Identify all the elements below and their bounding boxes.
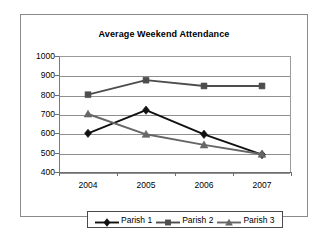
y-tick-label: 700 <box>21 109 55 119</box>
y-tick-label: 400 <box>21 167 55 177</box>
chart-title: Average Weekend Attendance <box>21 29 307 39</box>
y-tick-mark <box>55 133 59 134</box>
x-tick-label: 2006 <box>182 180 226 190</box>
x-tick-label: 2005 <box>124 180 168 190</box>
y-tick-mark <box>55 56 59 57</box>
y-tick-mark <box>55 153 59 154</box>
legend-item-1[interactable]: Parish 1 <box>93 214 154 225</box>
legend-item-3[interactable]: Parish 3 <box>215 214 276 225</box>
y-tick-mark <box>55 75 59 76</box>
chart-legend: Parish 1Parish 2Parish 3 <box>87 211 283 228</box>
data-point-marker <box>201 130 208 138</box>
legend-label: Parish 3 <box>241 215 274 225</box>
y-tick-label: 500 <box>21 148 55 158</box>
y-tick-label: 600 <box>21 128 55 138</box>
x-tick-mark <box>175 172 176 176</box>
data-point-marker <box>85 129 92 137</box>
series-3 <box>84 110 266 157</box>
legend-marker-icon <box>95 214 119 225</box>
data-point-marker <box>143 77 149 83</box>
x-tick-mark <box>233 172 234 176</box>
y-tick-label: 900 <box>21 70 55 80</box>
series-line <box>88 80 262 95</box>
series-2 <box>85 77 265 97</box>
series-plot <box>59 56 291 172</box>
series-line <box>88 114 262 154</box>
chart-frame: Average Weekend Attendance 1000900800700… <box>20 14 308 217</box>
y-tick-mark <box>55 114 59 115</box>
x-tick-mark <box>117 172 118 176</box>
data-point-marker <box>85 92 91 98</box>
legend-item-2[interactable]: Parish 2 <box>154 214 215 225</box>
legend-label: Parish 1 <box>119 215 152 225</box>
y-axis-labels: 1000900800700600500400 <box>21 56 55 172</box>
data-point-marker <box>143 106 150 114</box>
y-tick-mark <box>55 95 59 96</box>
legend-label: Parish 2 <box>180 215 213 225</box>
data-point-marker <box>201 83 207 89</box>
series-line <box>88 110 262 154</box>
legend-marker-icon <box>217 214 241 225</box>
x-tick-mark <box>59 172 60 176</box>
data-point-marker <box>84 110 92 117</box>
x-tick-label: 2004 <box>66 180 110 190</box>
data-point-marker <box>259 83 265 89</box>
x-tick-mark <box>291 172 292 176</box>
y-tick-label: 1000 <box>21 51 55 61</box>
x-tick-label: 2007 <box>240 180 284 190</box>
y-tick-label: 800 <box>21 90 55 100</box>
legend-marker-icon <box>156 214 180 225</box>
